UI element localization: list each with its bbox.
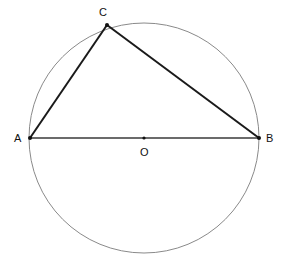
label-b: B <box>266 132 273 144</box>
point-o <box>142 136 145 139</box>
label-o: O <box>140 146 149 158</box>
geometry-diagram: A B C O <box>0 0 284 270</box>
label-c: C <box>99 6 107 18</box>
point-b <box>257 136 261 140</box>
label-a: A <box>14 132 22 144</box>
side-cb <box>107 25 259 138</box>
side-ac <box>30 25 107 138</box>
point-a <box>28 136 32 140</box>
point-c <box>105 23 109 27</box>
